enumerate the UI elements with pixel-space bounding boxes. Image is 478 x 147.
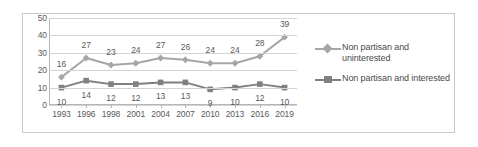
diamond-marker-icon	[108, 62, 115, 69]
x-tick-label: 2010	[201, 110, 220, 119]
plot-area: 162723242726242428391014121213139101210	[49, 18, 297, 105]
plot-wrapper: 01020304050 1627232427262424283910141212…	[23, 14, 301, 132]
diamond-marker-icon	[323, 44, 333, 54]
data-point-label: 24	[206, 46, 215, 55]
x-tick-label: 1998	[102, 110, 121, 119]
y-tick-label: 30	[23, 49, 47, 58]
diamond-marker-icon	[132, 60, 139, 67]
gridline	[49, 70, 297, 71]
y-tick-label: 50	[23, 14, 47, 23]
diamond-marker-icon	[182, 56, 189, 63]
y-tick-label: 40	[23, 31, 47, 40]
square-marker-icon	[324, 76, 332, 83]
square-marker-icon	[108, 81, 114, 87]
y-tick-label: 0	[23, 101, 47, 110]
data-point-label: 13	[181, 92, 190, 101]
legend-label: Non partisan anduninterested	[342, 42, 409, 64]
data-point-label: 24	[230, 46, 239, 55]
x-tick-label: 2016	[251, 110, 270, 119]
data-point-label: 27	[82, 41, 91, 50]
x-tick-mark	[185, 105, 186, 108]
data-point-label: 13	[156, 92, 165, 101]
x-axis-tick-labels: 1993199619982001200420072010201320162019	[49, 110, 297, 124]
data-point-label: 23	[106, 48, 115, 57]
data-point-label: 10	[230, 97, 239, 106]
square-marker-icon	[158, 80, 164, 86]
legend-key	[315, 74, 341, 86]
legend-entry[interactable]: Non partisan anduninterested	[315, 42, 450, 64]
square-marker-icon	[257, 81, 263, 87]
diamond-marker-icon	[157, 55, 164, 62]
square-marker-icon	[133, 81, 139, 87]
x-tick-label: 2004	[151, 110, 170, 119]
x-tick-mark	[161, 105, 162, 108]
data-point-label: 39	[280, 20, 289, 29]
chart-figure: 01020304050 1627232427262424283910141212…	[22, 13, 455, 133]
data-point-label: 12	[255, 94, 264, 103]
x-tick-label: 1993	[52, 110, 71, 119]
data-point-label: 16	[57, 60, 66, 69]
y-axis-tick-labels: 01020304050	[23, 14, 47, 107]
data-point-label: 12	[131, 94, 140, 103]
data-point-label: 10	[57, 97, 66, 106]
data-point-label: 9	[208, 99, 213, 108]
y-tick-label: 10	[23, 83, 47, 92]
diamond-marker-icon	[232, 60, 239, 67]
data-point-label: 12	[106, 94, 115, 103]
data-point-label: 14	[82, 90, 91, 99]
x-tick-label: 2001	[127, 110, 146, 119]
x-tick-label: 1996	[77, 110, 96, 119]
data-point-label: 27	[156, 41, 165, 50]
gridline	[49, 35, 297, 36]
x-tick-label: 2013	[226, 110, 245, 119]
data-point-label: 24	[131, 46, 140, 55]
square-marker-icon	[83, 78, 89, 84]
legend-entry[interactable]: Non partisan and interested	[315, 73, 450, 86]
x-tick-mark	[86, 105, 87, 108]
data-point-label: 10	[280, 97, 289, 106]
x-tick-mark	[111, 105, 112, 108]
x-tick-mark	[136, 105, 137, 108]
y-tick-label: 20	[23, 66, 47, 75]
legend-label: Non partisan and interested	[342, 73, 450, 84]
data-point-label: 28	[255, 39, 264, 48]
chart-legend: Non partisan anduninterestedNon partisan…	[315, 42, 450, 95]
legend-key	[315, 43, 341, 55]
data-point-label: 26	[181, 43, 190, 52]
x-tick-label: 2007	[176, 110, 195, 119]
gridline	[49, 18, 297, 19]
gridline	[49, 53, 297, 54]
diamond-marker-icon	[207, 60, 214, 67]
square-marker-icon	[183, 80, 189, 86]
x-tick-mark	[260, 105, 261, 108]
x-tick-label: 2019	[275, 110, 294, 119]
